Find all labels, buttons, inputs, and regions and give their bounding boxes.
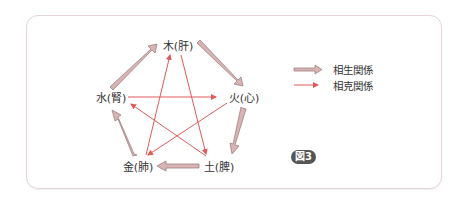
arrow-metal-to-water [112, 110, 137, 156]
controlling-arrows [128, 55, 227, 156]
arrow-fire-to-metal [148, 103, 227, 155]
node-metal-lung: 金(肺) [123, 158, 154, 174]
arrow-earth-to-metal [157, 161, 199, 171]
node-earth-spleen: 土(脾) [204, 158, 235, 174]
legend-controlling-label: 相克関係 [333, 78, 373, 93]
generating-arrows [110, 40, 246, 171]
legend-generating-label: 相生関係 [333, 62, 373, 77]
arrow-wood-to-earth [181, 55, 206, 154]
arrow-metal-to-wood [146, 55, 170, 155]
node-wood-liver: 木(肝) [163, 37, 194, 53]
arrow-water-to-wood [110, 44, 157, 90]
arrow-fire-to-earth [230, 107, 246, 154]
arrow-earth-to-water [131, 104, 206, 156]
legend-generating-arrow [294, 65, 322, 74]
arrow-wood-to-fire [197, 40, 243, 86]
node-fire-heart: 火(心) [229, 89, 260, 105]
node-water-kidney: 水(腎) [96, 89, 127, 105]
figure-label-badge: 図3 [291, 150, 316, 164]
